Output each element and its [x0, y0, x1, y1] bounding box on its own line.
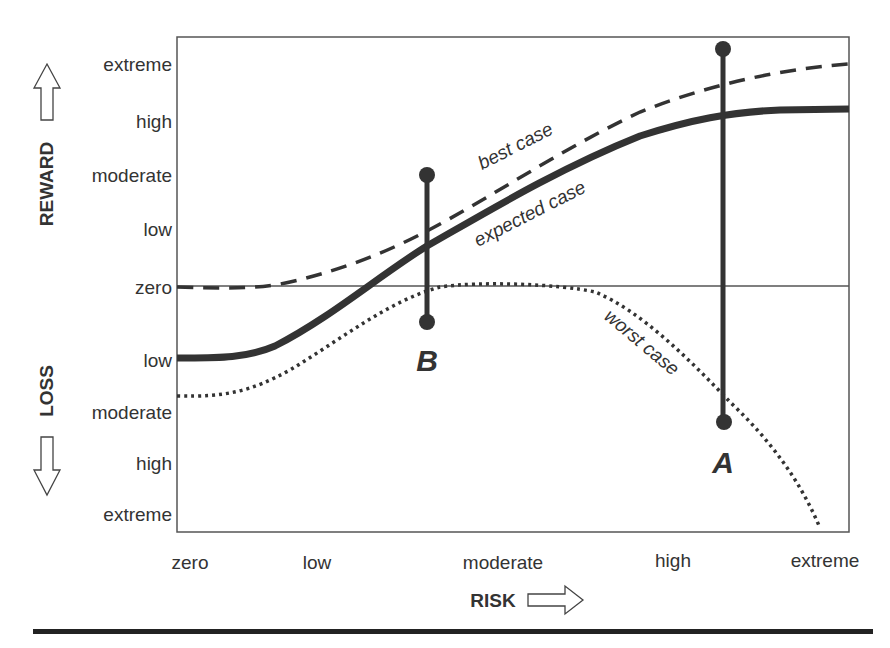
range-a-top-dot [715, 41, 731, 57]
x-tick-moderate: moderate [463, 552, 543, 573]
reward-axis-title: REWARD [36, 142, 57, 226]
y-tick-reward-extreme: extreme [103, 54, 172, 75]
reward-up-arrow-icon [34, 64, 60, 120]
y-tick-loss-moderate: moderate [92, 402, 172, 423]
loss-axis-title: LOSS [36, 365, 57, 417]
bottom-rule [33, 629, 873, 634]
loss-down-arrow-icon [34, 437, 60, 495]
y-tick-loss-high: high [136, 453, 172, 474]
risk-axis-title: RISK [470, 590, 516, 611]
y-tick-reward-high: high [136, 111, 172, 132]
point-a-label: A [711, 446, 734, 479]
x-tick-extreme: extreme [791, 550, 860, 571]
risk-right-arrow-icon [528, 586, 583, 614]
x-tick-low: low [303, 552, 332, 573]
y-tick-loss-extreme: extreme [103, 504, 172, 525]
range-b-bottom-dot [419, 314, 435, 330]
y-tick-reward-moderate: moderate [92, 165, 172, 186]
y-tick-loss-low: low [143, 350, 172, 371]
worst-case-label: worst case [600, 305, 683, 379]
x-tick-high: high [655, 550, 691, 571]
y-tick-reward-low: low [143, 219, 172, 240]
risk-reward-diagram: extreme high moderate low zero low moder… [0, 0, 890, 648]
best-case-curve [177, 64, 849, 288]
range-b-top-dot [419, 167, 435, 183]
range-a-bottom-dot [716, 414, 732, 430]
y-tick-zero: zero [135, 277, 172, 298]
point-b-label: B [416, 344, 438, 377]
x-tick-zero: zero [172, 552, 209, 573]
